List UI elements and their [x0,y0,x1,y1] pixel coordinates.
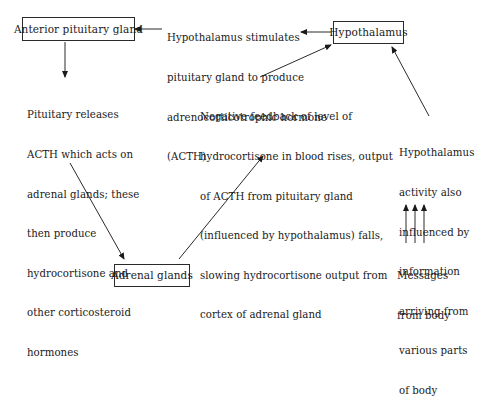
annotation-line: Messages [397,269,450,282]
annotation-line: hormones [27,346,139,359]
annotation-line: hydrocortisone and [27,267,139,280]
annotation-line: cortex of adrenal gland [200,308,393,321]
annotation-line: of body [399,384,474,397]
annotation-line: hydrocortisone in blood rises, output [200,150,393,163]
annotation-line: various parts [399,344,474,357]
node-anterior-pituitary-gland: Anterior pituitary gland [22,17,135,41]
annotation-line: Hypothalamus [399,146,474,159]
node-label: Anterior pituitary gland [14,24,143,35]
annotation-negative-feedback: Negative feedback of level of hydrocorti… [200,84,393,335]
annotation-line: pituitary gland to produce [167,71,327,84]
annotation-line: Negative feedback of level of [200,110,393,123]
arrow-activity-to-hypothalamus [392,47,429,116]
annotation-line: influenced by [399,226,474,239]
annotation-line: Hypothalamus stimulates [167,31,327,44]
node-label: Hypothalamus [329,27,407,38]
annotation-line: Pituitary releases [27,108,139,121]
annotation-messages-from-body: Messages from body [397,243,450,335]
annotation-line: of ACTH from pituitary gland [200,190,393,203]
annotation-pituitary-releases: Pituitary releases ACTH which acts on ad… [27,82,139,372]
annotation-line: other corticosteroid [27,306,139,319]
annotation-line: ACTH which acts on [27,148,139,161]
annotation-line: slowing hydrocortisone output from [200,269,393,282]
annotation-line: from body [397,309,450,322]
annotation-line: activity also [399,186,474,199]
node-hypothalamus: Hypothalamus [333,21,404,44]
annotation-line: adrenal glands; these [27,188,139,201]
annotation-line: then produce [27,227,139,240]
annotation-line: (influenced by hypothalamus) falls, [200,229,393,242]
